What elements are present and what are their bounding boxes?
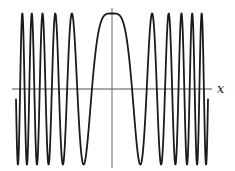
x-axis-label: x xyxy=(217,81,225,96)
plot-area: x xyxy=(0,0,235,171)
